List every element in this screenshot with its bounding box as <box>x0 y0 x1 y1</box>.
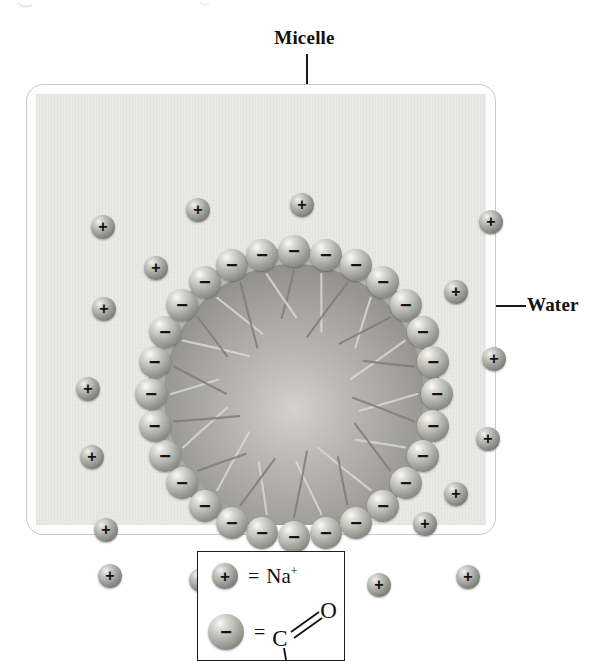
head-group-charge-glyph: − <box>350 255 362 275</box>
sodium-ion: + <box>80 445 104 469</box>
sodium-ion-charge-glyph: + <box>451 284 460 300</box>
sodium-ion: + <box>94 518 118 542</box>
carboxylate-head-group: − <box>139 346 171 378</box>
head-group-charge-glyph: − <box>226 255 238 275</box>
carboxylate-head-group: − <box>135 378 167 410</box>
micelle-label: Micelle <box>0 27 609 49</box>
sodium-ion: + <box>144 256 168 280</box>
head-group-charge-glyph: − <box>377 272 389 292</box>
sodium-ion-charge-glyph: + <box>483 431 492 447</box>
carboxylate-head-group: − <box>278 521 310 553</box>
head-group-charge-glyph: − <box>288 527 300 547</box>
legend-carboxylate-sphere: − <box>208 614 244 650</box>
carboxylate-head-group: − <box>310 239 342 271</box>
water-label: Water <box>527 294 579 316</box>
carboxylate-head-group: − <box>367 490 399 522</box>
carboxylate-head-group: − <box>340 507 372 539</box>
carboxylate-head-group: − <box>216 507 248 539</box>
scan-artifact <box>0 0 609 16</box>
legend-row-sodium: + = Na+ <box>212 563 298 589</box>
sodium-ion-charge-glyph: + <box>83 381 92 397</box>
sodium-ion: + <box>482 347 506 371</box>
carboxylate-head-group: − <box>149 440 181 472</box>
sodium-ion: + <box>444 280 468 304</box>
legend-sodium-charge: + <box>291 564 298 578</box>
sodium-ion: + <box>91 215 115 239</box>
sodium-ion-charge-glyph: + <box>463 569 472 585</box>
sodium-ion-charge-glyph: + <box>99 301 108 317</box>
head-group-charge-glyph: − <box>159 446 171 466</box>
head-group-charge-glyph: − <box>256 523 268 543</box>
carboxylate-head-group: − <box>421 378 453 410</box>
carboxylate-head-group: − <box>189 490 221 522</box>
carboxylate-head-group: − <box>139 410 171 442</box>
legend-sodium-formula: Na+ <box>266 564 297 589</box>
legend-sodium-symbol: Na <box>266 564 291 588</box>
sodium-ion: + <box>479 210 503 234</box>
carboxylate-head-group: − <box>216 249 248 281</box>
sodium-ion-charge-glyph: + <box>87 449 96 465</box>
carboxylate-head-group: − <box>407 316 439 348</box>
legend-sodium-sphere: + <box>212 563 238 589</box>
sodium-ion: + <box>367 573 391 597</box>
head-group-charge-glyph: − <box>159 322 171 342</box>
head-group-charge-glyph: − <box>428 352 440 372</box>
head-group-charge-glyph: − <box>199 272 211 292</box>
carboxylate-head-group: − <box>189 266 221 298</box>
head-group-charge-glyph: − <box>400 473 412 493</box>
head-group-charge-glyph: − <box>320 523 332 543</box>
sodium-ion-charge-glyph: + <box>193 202 202 218</box>
head-group-charge-glyph: − <box>377 496 389 516</box>
carboxylate-head-group: − <box>417 410 449 442</box>
sodium-ion: + <box>92 297 116 321</box>
double-bond-icon <box>272 604 344 660</box>
head-group-charge-glyph: − <box>350 513 362 533</box>
legend-equals-sodium: = <box>248 565 259 588</box>
head-group-charge-glyph: − <box>176 473 188 493</box>
sodium-ion: + <box>444 482 468 506</box>
sodium-ion: + <box>290 193 314 217</box>
sodium-ion-charge-glyph: + <box>101 522 110 538</box>
head-group-charge-glyph: − <box>149 352 161 372</box>
head-group-charge-glyph: − <box>428 416 440 436</box>
sodium-ion-charge-glyph: + <box>489 351 498 367</box>
sodium-ion: + <box>476 427 500 451</box>
head-group-charge-glyph: − <box>199 496 211 516</box>
sodium-ion-charge-glyph: + <box>105 568 114 584</box>
head-group-charge-glyph: − <box>288 241 300 261</box>
sodium-ion-charge-glyph: + <box>374 577 383 593</box>
head-group-charge-glyph: − <box>431 384 443 404</box>
head-group-charge-glyph: − <box>320 245 332 265</box>
sodium-ion-charge-glyph: + <box>151 260 160 276</box>
head-group-charge-glyph: − <box>145 384 157 404</box>
legend-row-carboxylate: − = C O <box>208 604 344 660</box>
micelle-core <box>164 264 424 524</box>
carboxylate-head-group: − <box>278 235 310 267</box>
carboxylate-head-group: − <box>149 316 181 348</box>
legend-equals-carboxylate: = <box>254 621 265 644</box>
head-group-charge-glyph: − <box>176 295 188 315</box>
sodium-ion-charge-glyph: + <box>486 214 495 230</box>
sodium-ion: + <box>413 512 437 536</box>
sodium-ion-charge-glyph: + <box>420 516 429 532</box>
legend-box: + = Na+ − = C O <box>197 551 345 661</box>
sodium-ion: + <box>186 198 210 222</box>
head-group-charge-glyph: − <box>149 416 161 436</box>
sodium-ion: + <box>76 377 100 401</box>
head-group-charge-glyph: − <box>417 446 429 466</box>
head-group-charge-glyph: − <box>226 513 238 533</box>
legend-sodium-glyph: + <box>220 568 230 585</box>
carboxylate-structure: C O <box>272 604 344 660</box>
carboxylate-head-group: − <box>310 517 342 549</box>
legend-carboxylate-glyph: − <box>220 622 232 642</box>
sodium-ion-charge-glyph: + <box>297 197 306 213</box>
head-group-charge-glyph: − <box>256 245 268 265</box>
sodium-ion: + <box>456 565 480 589</box>
head-group-charge-glyph: − <box>417 322 429 342</box>
head-group-charge-glyph: − <box>400 295 412 315</box>
sodium-ion: + <box>98 564 122 588</box>
sodium-ion-charge-glyph: + <box>98 219 107 235</box>
carboxylate-head-group: − <box>246 517 278 549</box>
sodium-ion-charge-glyph: + <box>451 486 460 502</box>
